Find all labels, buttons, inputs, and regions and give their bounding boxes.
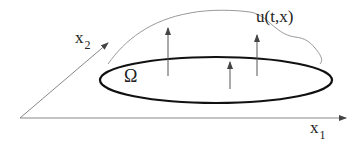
diagram-canvas bbox=[0, 0, 361, 149]
x2-label-base: x bbox=[75, 28, 84, 47]
x1-label-base: x bbox=[310, 118, 319, 137]
domain-label: Ω bbox=[124, 66, 137, 87]
x2-label-sub: 2 bbox=[85, 38, 91, 52]
x2-axis bbox=[20, 43, 108, 118]
x1-label-sub: 1 bbox=[320, 128, 326, 142]
x2-axis-label: x2 bbox=[75, 28, 91, 48]
function-label: u(t,x) bbox=[256, 7, 293, 27]
x1-axis-label: x1 bbox=[310, 118, 326, 138]
